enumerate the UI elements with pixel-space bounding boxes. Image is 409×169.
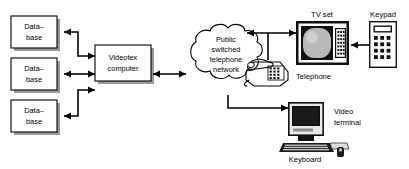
connection-videotex-to-database-2 xyxy=(64,71,95,78)
telephone-cord xyxy=(245,80,249,86)
cloud-label-line2: switched xyxy=(212,45,241,54)
diagram-canvas: Data– base Data– base Data– base Videote… xyxy=(0,0,409,169)
videotex-computer-label-line1: Videotex xyxy=(109,53,138,62)
telephone-earpiece xyxy=(248,62,255,67)
connection-videotex-to-cloud xyxy=(153,71,186,78)
keypad-icon: Keypad xyxy=(369,10,397,68)
arrowhead-tv-right xyxy=(289,30,296,37)
video-terminal-label-line2: terminal xyxy=(334,118,361,127)
mouse-button xyxy=(339,148,342,151)
database-box-2: Data– base xyxy=(11,58,60,93)
tv-screen xyxy=(303,28,331,58)
tv-set-icon: TV set xyxy=(296,10,349,65)
telephone-keypad xyxy=(268,66,284,80)
videotex-computer-box: Videotex computer xyxy=(95,45,154,84)
arrowhead-cloud-right xyxy=(179,71,186,78)
cloud-label-line3: telephone xyxy=(210,55,242,64)
tv-set-label: TV set xyxy=(311,10,334,19)
arrowhead-videotex-from-db3 xyxy=(88,87,95,94)
keyboard-keys xyxy=(283,145,329,151)
arrowhead-db2-left xyxy=(64,71,71,78)
cloud-label-line1: Public xyxy=(216,35,236,44)
connection-cloud-to-video-terminal xyxy=(228,95,288,111)
telephone-label: Telephone xyxy=(296,72,331,81)
arrowhead-video-terminal xyxy=(281,105,288,112)
videotex-system-diagram: Data– base Data– base Data– base Videote… xyxy=(0,0,409,169)
keyboard-label: Keyboard xyxy=(289,155,322,164)
keypad-display xyxy=(375,27,391,31)
arrowhead-keypad-to-tv xyxy=(351,42,358,49)
monitor-screen xyxy=(294,108,319,125)
connection-keypad-to-tv xyxy=(351,42,369,49)
database-box-3-label-line1: Data– xyxy=(24,106,45,115)
monitor-stand xyxy=(298,136,314,141)
arrowhead-db2-right xyxy=(88,71,95,78)
database-box-2-label-line2: base xyxy=(26,75,42,84)
keypad-label: Keypad xyxy=(370,10,396,19)
arrowhead-cloud-left xyxy=(153,71,160,78)
database-box-3: Data– base xyxy=(11,100,60,135)
connection-videotex-to-database-1 xyxy=(64,29,95,60)
arrowhead-videotex-from-db1 xyxy=(88,53,95,60)
database-box-1-label-line2: base xyxy=(26,33,42,42)
database-box-2-label-line1: Data– xyxy=(24,64,45,73)
tv-screen-highlight xyxy=(306,31,318,43)
monitor-drive-slot xyxy=(293,129,313,132)
database-box-1: Data– base xyxy=(11,16,60,51)
arrowhead-db1 xyxy=(64,29,71,36)
cloud-label-line4: network xyxy=(213,65,239,74)
connection-videotex-to-database-3 xyxy=(64,87,95,120)
videotex-computer-label-line2: computer xyxy=(108,64,139,73)
arrowhead-db3 xyxy=(64,113,71,120)
video-terminal-icon: Video terminal Keyboard xyxy=(279,102,361,164)
database-box-3-label-line2: base xyxy=(26,117,42,126)
database-box-1-label-line1: Data– xyxy=(24,22,45,31)
video-terminal-label-line1: Video xyxy=(334,107,353,116)
videotex-computer-outline xyxy=(95,45,151,81)
connection-cloud-to-tv-set xyxy=(247,30,296,60)
